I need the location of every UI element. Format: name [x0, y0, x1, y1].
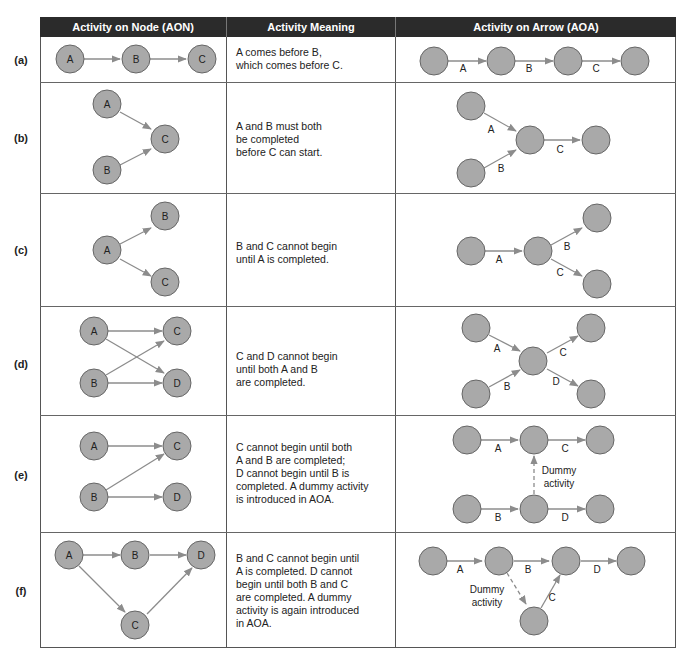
aoa-diagram-f: A B D C Dummy activity [0, 0, 692, 665]
svg-text:A: A [457, 564, 464, 575]
svg-text:C: C [548, 592, 555, 603]
svg-text:activity: activity [472, 597, 503, 608]
svg-text:Dummy: Dummy [470, 584, 504, 595]
svg-text:B: B [525, 564, 532, 575]
svg-text:D: D [593, 564, 600, 575]
dummy-activity-arrow [507, 573, 526, 604]
